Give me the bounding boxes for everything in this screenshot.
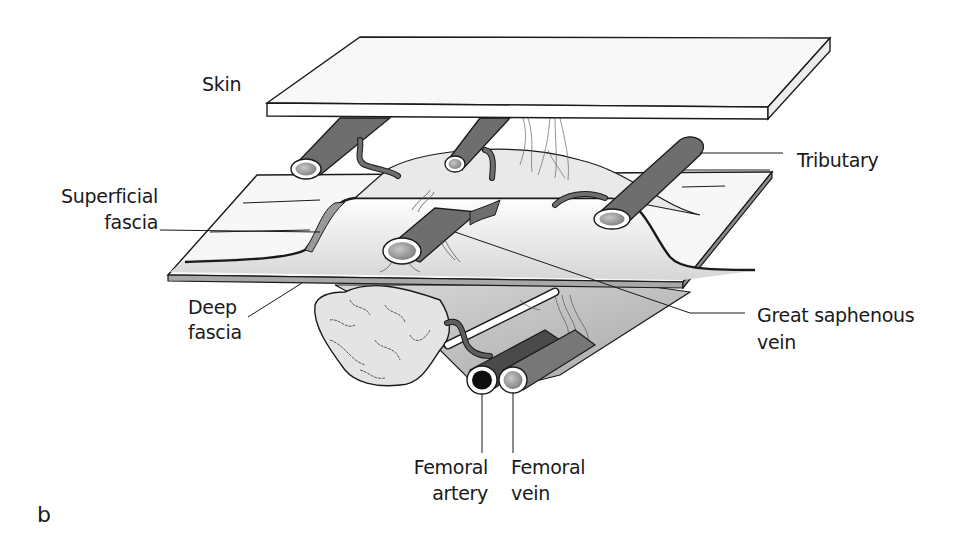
label-femoral-vein-1: Femoral: [511, 455, 585, 479]
label-superficial-fascia-2: fascia: [40, 210, 158, 234]
label-superficial-fascia-1: Superficial: [40, 184, 158, 208]
label-femoral-artery-2: artery: [380, 481, 488, 505]
label-deep-fascia-2: fascia: [188, 320, 242, 344]
muscle-mass: [315, 286, 450, 386]
deep-structures: [315, 285, 690, 394]
label-femoral-vein-2: vein: [511, 481, 550, 505]
label-femoral-artery-1: Femoral: [380, 455, 488, 479]
label-great-saphenous-2: vein: [757, 330, 796, 354]
label-skin: Skin: [202, 72, 241, 96]
leader-deep-fascia: [248, 283, 302, 317]
label-great-saphenous-1: Great saphenous: [757, 303, 914, 327]
label-tributary: Tributary: [797, 148, 878, 172]
anatomy-diagram: [0, 0, 978, 546]
panel-letter: b: [37, 502, 51, 527]
label-deep-fascia-1: Deep: [188, 295, 237, 319]
skin-layer: [267, 37, 830, 119]
